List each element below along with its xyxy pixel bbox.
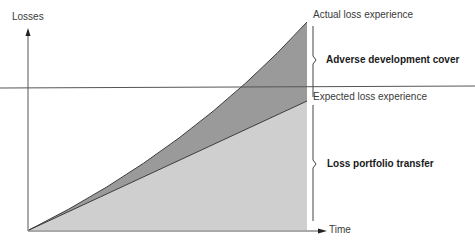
horizontal-rule	[0, 86, 475, 88]
x-axis-label: Time	[329, 224, 351, 236]
adverse-development-label: Adverse development cover	[326, 54, 459, 66]
diagram-canvas	[0, 0, 475, 242]
brace-lower-icon	[313, 105, 316, 221]
x-axis-arrow-icon	[318, 229, 327, 234]
actual-loss-label: Actual loss experience	[313, 9, 413, 21]
y-axis-arrow-icon	[26, 28, 31, 36]
expected-loss-label: Expected loss experience	[313, 91, 427, 103]
y-axis-label: Losses	[12, 11, 44, 23]
loss-portfolio-label: Loss portfolio transfer	[327, 158, 434, 170]
